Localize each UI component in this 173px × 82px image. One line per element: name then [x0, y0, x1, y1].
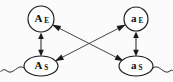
edge-aE-AS-arrowhead-upright: [117, 25, 126, 32]
node-A-S-subscript: S: [44, 64, 48, 72]
node-a-E[interactable]: a E: [124, 7, 148, 31]
diagram-canvas: a_S ============ --> A_S ============ --…: [0, 0, 173, 82]
edge-AE-AS-arrowhead-up: [38, 32, 44, 39]
edge-aE-aS-arrowhead-down: [133, 50, 139, 57]
edge-aE-AS: [55, 25, 126, 62]
edge-AE-AS-arrowhead-down: [38, 50, 44, 57]
node-a-S-subscript: S: [139, 64, 143, 72]
edge-aE-AS-arrowhead-downleft: [55, 55, 64, 62]
edge-aE-AS-line: [56, 25, 125, 60]
node-A-S[interactable]: A S: [24, 56, 58, 76]
node-a-E-subscript: E: [139, 17, 144, 25]
tail-left-wave: [1, 67, 25, 72]
edge-AE-aS-line: [53, 25, 122, 60]
diagram-svg: a_S ============ --> A_S ============ --…: [0, 0, 173, 82]
node-a-E-base: a: [131, 12, 137, 24]
edge-AE-AS: [38, 32, 44, 56]
edge-aE-aS-arrowhead-up: [133, 31, 139, 38]
node-A-E-subscript: E: [44, 17, 49, 25]
node-A-E-base: A: [35, 12, 43, 24]
edge-aE-aS: [133, 31, 139, 56]
node-a-S-base: a: [131, 59, 137, 71]
node-A-S-base: A: [35, 59, 43, 71]
node-a-S[interactable]: a S: [119, 56, 153, 76]
edge-AE-aS: [52, 25, 124, 62]
node-A-E[interactable]: A E: [28, 6, 54, 32]
tail-right-wave: [153, 67, 173, 72]
edge-AE-aS-arrowhead-upleft: [52, 25, 61, 32]
tail-left: [1, 67, 25, 72]
tail-right: [153, 67, 173, 72]
